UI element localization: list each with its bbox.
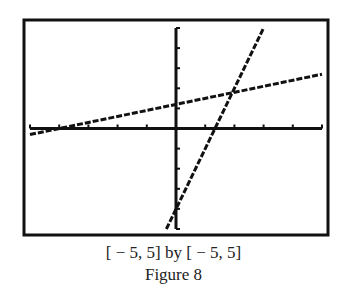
calculator-graph [0,0,347,240]
window-caption: [ − 5, 5] by [ − 5, 5] [0,243,347,263]
figure-label: Figure 8 [0,265,347,285]
